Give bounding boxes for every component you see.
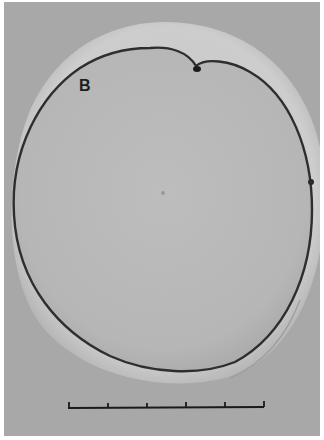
edge-mark	[308, 179, 314, 185]
panel-label: B	[79, 78, 91, 94]
micrograph-frame: B	[4, 2, 320, 436]
micrograph-image	[4, 2, 320, 436]
notch-spot	[193, 66, 201, 72]
center-dot	[161, 191, 165, 195]
